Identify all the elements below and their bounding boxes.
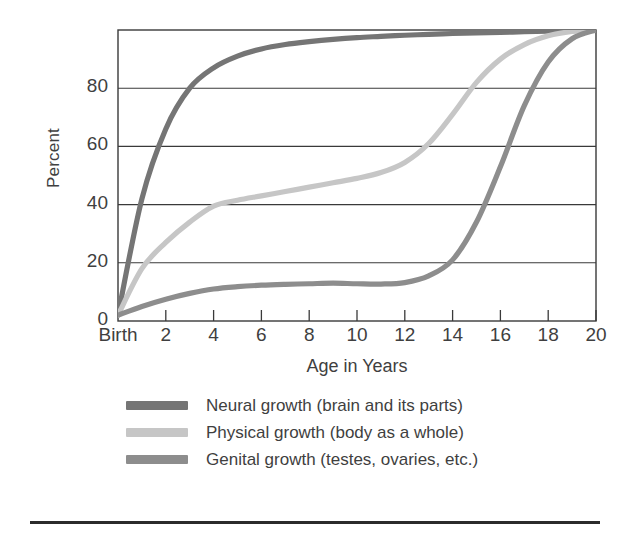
x-tick-label: 18 [538,324,559,346]
legend-swatch-1 [126,401,188,410]
x-tick-label: 2 [161,324,172,346]
legend-swatch-3 [126,455,188,464]
x-tick-label: 20 [585,324,606,346]
x-axis-title: Age in Years [118,356,596,377]
legend-label: Neural growth (brain and its parts) [206,396,463,416]
x-tick-label: Birth [98,324,137,346]
legend-item: Physical growth (body as a whole) [126,419,596,446]
x-tick-label: 12 [394,324,415,346]
legend-item: Neural growth (brain and its parts) [126,392,596,419]
growth-curves-figure: Percent 806040200 Birth2468101214161820 … [0,0,628,536]
x-tick-label: 4 [208,324,219,346]
y-tick-labels: 806040200 [52,0,108,340]
x-tick-label: 8 [304,324,315,346]
y-tick-label: 80 [60,75,108,97]
x-tick-labels: Birth2468101214161820 [0,324,628,354]
legend-label: Physical growth (body as a whole) [206,423,464,443]
bottom-divider-rule [30,521,600,524]
chart-legend: Neural growth (brain and its parts)Physi… [126,392,596,473]
legend-swatch-2 [126,428,188,437]
x-tick-label: 10 [346,324,367,346]
legend-item: Genital growth (testes, ovaries, etc.) [126,446,596,473]
x-tick-label: 14 [442,324,463,346]
legend-label: Genital growth (testes, ovaries, etc.) [206,450,478,470]
y-tick-label: 20 [60,250,108,272]
x-tick-label: 16 [490,324,511,346]
y-tick-label: 40 [60,192,108,214]
y-tick-label: 60 [60,133,108,155]
plot-frame [118,30,596,321]
x-tick-label: 6 [256,324,267,346]
